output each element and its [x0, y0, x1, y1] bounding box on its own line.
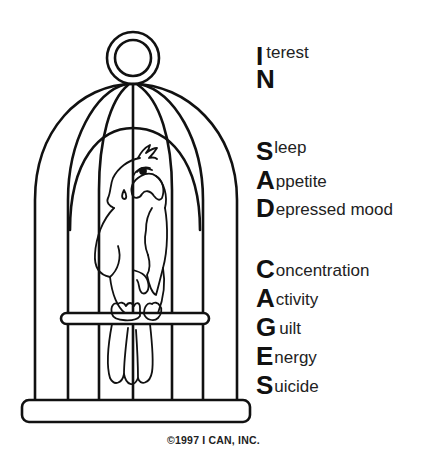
acrostic-initial: C [256, 258, 275, 280]
acrostic-line-activity: A ctivity [256, 287, 318, 309]
acrostic-line-sleep: S leep [256, 139, 306, 162]
copyright-notice: ©1997 I CAN, INC. [0, 434, 427, 446]
acrostic-initial: A [256, 169, 275, 191]
acrostic-line-suicide: S uicide [256, 374, 319, 396]
acrostic-word: ppetite [276, 173, 327, 191]
acrostic-word: uicide [274, 378, 318, 396]
acrostic-word: uilt [279, 320, 301, 338]
acrostic-word: ctivity [276, 291, 319, 309]
acrostic-word: epressed mood [276, 201, 393, 219]
acrostic-initial: S [256, 140, 273, 162]
acrostic-initial: E [256, 345, 273, 367]
acrostic-initial: A [256, 287, 275, 309]
acrostic-line-depressed-mood: D epressed mood [256, 197, 393, 219]
acrostic-initial: D [256, 197, 275, 219]
acrostic-word: nergy [274, 349, 317, 367]
acrostic-line-guilt: G uilt [256, 316, 301, 338]
acrostic-initial: S [256, 374, 273, 396]
acrostic-word: oncentration [276, 262, 370, 280]
acrostic-line-concentration: C oncentration [256, 258, 369, 280]
depression-acrostic: I terest N S leep A ppetite D epressed m… [0, 0, 427, 466]
acrostic-line-energy: E nergy [256, 345, 317, 367]
acrostic-line-appetite: A ppetite [256, 169, 327, 191]
acrostic-initial: N [256, 68, 275, 90]
acrostic-word: leep [274, 139, 306, 162]
acrostic-line-n: N [256, 68, 275, 90]
acrostic-initial: G [256, 316, 276, 338]
